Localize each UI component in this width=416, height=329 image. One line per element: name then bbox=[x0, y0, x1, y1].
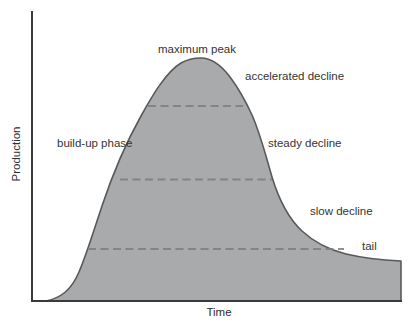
label-maximum-peak: maximum peak bbox=[158, 43, 236, 55]
production-curve-chart: maximum peak accelerated decline build-u… bbox=[0, 0, 416, 329]
label-steady-decline: steady decline bbox=[268, 137, 342, 149]
label-slow-decline: slow decline bbox=[310, 205, 373, 217]
label-accelerated-decline: accelerated decline bbox=[245, 70, 344, 82]
production-lifecycle-figure: maximum peak accelerated decline build-u… bbox=[0, 0, 416, 329]
label-tail: tail bbox=[362, 240, 377, 252]
label-build-up-phase: build-up phase bbox=[57, 137, 132, 149]
x-axis-label: Time bbox=[206, 306, 231, 318]
y-axis-label: Production bbox=[10, 127, 22, 182]
